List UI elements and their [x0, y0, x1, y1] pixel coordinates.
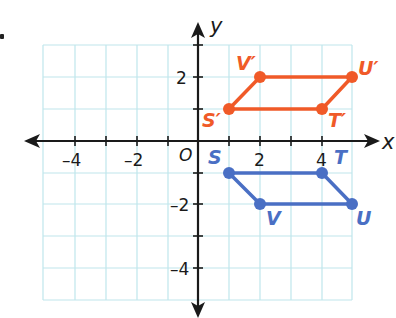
y-tick-label: –4: [170, 259, 189, 279]
point-v-prime: [254, 71, 266, 83]
label-t: T: [334, 146, 349, 168]
x-axis-label: x: [381, 130, 395, 154]
x-tick-label: –4: [62, 150, 81, 170]
label-s: S: [208, 146, 222, 168]
origin-label: O: [179, 145, 192, 165]
point-t-prime: [316, 103, 328, 115]
y-axis-label: y: [209, 14, 223, 38]
preimage-parallelogram: S T U V: [208, 146, 372, 229]
point-s-prime: [223, 103, 235, 115]
x-tick-label: –2: [124, 150, 143, 170]
coordinate-plane: –4 –2 2 4 2 –2 –4 O x y S′ T′ U′ V′ S T: [0, 0, 396, 318]
y-tick-label: –2: [170, 195, 189, 215]
label-t-prime: T′: [328, 109, 346, 131]
label-u-prime: U′: [358, 57, 378, 79]
x-tick-label: 2: [254, 150, 265, 170]
point-s: [223, 167, 235, 179]
point-v: [254, 198, 266, 210]
label-v: V: [266, 207, 282, 229]
y-tick-label: 2: [176, 68, 187, 88]
point-t: [316, 167, 328, 179]
point-u-prime: [346, 71, 358, 83]
label-u: U: [356, 207, 372, 229]
label-s-prime: S′: [202, 109, 221, 131]
x-tick-label: 4: [316, 150, 327, 170]
label-v-prime: V′: [236, 52, 256, 74]
